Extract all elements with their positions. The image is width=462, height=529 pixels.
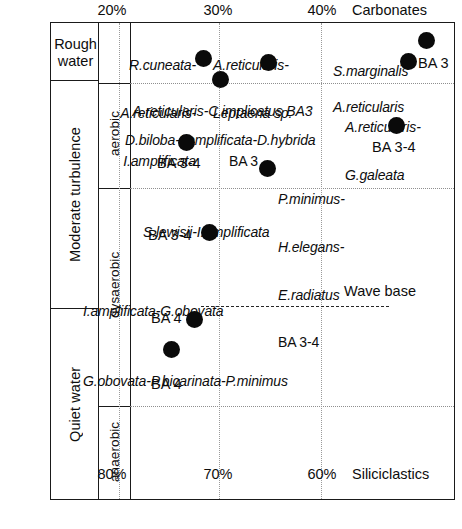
- data-point: [163, 341, 180, 358]
- data-point: [195, 50, 212, 67]
- axis-tick-top-40: 40%: [292, 2, 352, 18]
- data-point: [178, 134, 195, 151]
- annotation-line: E.radiatus: [278, 288, 345, 304]
- axis-tick-bottom-80: 80%: [82, 466, 142, 482]
- wave-base-label: Wave base: [344, 283, 416, 299]
- axis-name-carbonates: Carbonates: [352, 2, 427, 18]
- data-point: [418, 32, 435, 49]
- zone-dysaerobic: dysaerobic: [99, 190, 129, 380]
- figure-root: 20% 30% 40% Carbonates Rough water Moder…: [0, 0, 462, 529]
- axis-tick-top-20: 20%: [82, 2, 142, 18]
- annotation-line: G.obovata-P.bicarinata-P.minimus: [83, 373, 288, 389]
- zone-moderate-turbulence: Moderate turbulence: [52, 81, 98, 308]
- annotation-d-biloba: D.biloba-I.amplificata-D.hybrida: [110, 117, 315, 165]
- zone-anaerobic: anaerobic: [99, 408, 129, 496]
- annotation-line: R.cuneata-: [108, 58, 196, 74]
- annotation-line: G.galeata: [345, 168, 421, 184]
- data-point: [260, 54, 277, 71]
- annotation-ba-3-4-left: BA 3-4: [157, 155, 201, 171]
- annotation-ba-4-lower: BA 4: [151, 376, 182, 392]
- annotation-i-amplificata-g-obovata: I.amplificata-G.obovata: [68, 288, 223, 336]
- annotation-line: D.biloba-I.amplificata-D.hybrida: [125, 132, 316, 148]
- divider-dysaerobic-anaerobic: [98, 406, 130, 407]
- annotation-ba-3-right: BA 3: [418, 55, 449, 71]
- annotation-p-minimus: P.minimus- H.elegans- E.radiatus BA 3-4: [278, 160, 345, 383]
- axis-tick-bottom-60: 60%: [292, 466, 352, 482]
- zone-rough-line2: water: [58, 53, 93, 69]
- data-point: [259, 160, 276, 177]
- annotation-line: P.minimus-: [278, 192, 345, 208]
- annotation-line: H.elegans-: [278, 240, 345, 256]
- zone-rough-line1: Rough: [54, 36, 97, 52]
- zone-rough-water: Rough water: [52, 24, 99, 81]
- annotation-ba-3-4-right: BA 3-4: [372, 139, 416, 155]
- axis-name-siliciclastics: Siliciclastics: [352, 466, 429, 482]
- annotation-ba-3-4-lewisii: BA 3-4: [148, 227, 192, 243]
- data-point: [388, 117, 405, 134]
- data-point: [212, 71, 229, 88]
- data-point: [201, 224, 218, 241]
- data-point: [186, 311, 203, 328]
- axis-tick-top-30: 30%: [188, 2, 248, 18]
- annotation-ba-4-upper: BA 4: [151, 310, 182, 326]
- annotation-line: A.reticularis-: [345, 120, 421, 136]
- annotation-ba: BA 3-4: [278, 335, 345, 351]
- gridline-h-anaerobic: [130, 406, 454, 407]
- axis-tick-bottom-70: 70%: [188, 466, 248, 482]
